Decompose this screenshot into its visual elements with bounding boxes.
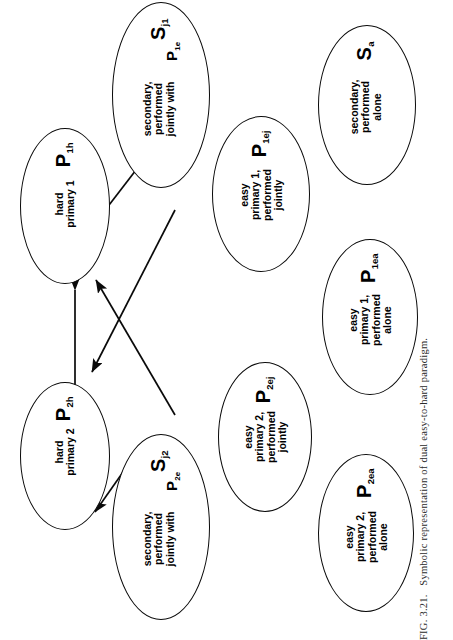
figure-page: P2h hard primary 2 P1h hard primary 1 Sj…: [0, 0, 453, 640]
node-easy-primary-1-alone[interactable]: P1ea easy primary 1, performed alone: [322, 239, 418, 395]
node-description-sa: secondary, performed alone: [349, 64, 383, 150]
figure-caption-text: Symbolic representation of dual easy-to-…: [418, 338, 429, 586]
node-hard-primary-1[interactable]: P1h hard primary 1: [20, 128, 110, 284]
node-trailer-symbol-sj2: P2e: [163, 472, 180, 491]
edge-sj2-p1h: [96, 280, 175, 415]
node-trailer-symbol-sj1: P1e: [163, 42, 180, 61]
diagram-canvas: P2h hard primary 2 P1h hard primary 1 Sj…: [0, 0, 400, 640]
node-symbol-p2ea: P2ea: [353, 469, 376, 498]
node-easy-primary-2-alone[interactable]: P2ea easy primary 2, performed alone: [318, 454, 414, 612]
node-description-sj1: secondary, performed jointly with: [142, 63, 176, 155]
node-secondary-alone[interactable]: Sa secondary, performed alone: [318, 25, 416, 185]
node-secondary-joint-2[interactable]: Sj2 secondary, performed jointly with P2…: [112, 434, 210, 620]
node-easy-primary-2-joint[interactable]: P2ej easy primary 2, performed jointly: [218, 362, 312, 512]
node-symbol-sa: Sa: [353, 42, 376, 60]
node-description-p2ej: easy primary 2, performed jointly: [243, 395, 289, 479]
node-symbol-sj1: Sj1: [147, 19, 170, 40]
node-hard-primary-2[interactable]: P2h hard primary 2: [20, 382, 110, 530]
node-secondary-joint-1[interactable]: Sj1 secondary, performed jointly with P1…: [112, 2, 210, 188]
node-description-p2h: hard primary 2: [54, 409, 77, 495]
node-description-p1ej: easy primary 1, performed jointly: [239, 153, 285, 237]
node-easy-primary-1-joint[interactable]: P1ej easy primary 1, performed jointly: [212, 116, 310, 272]
node-description-sj2: secondary, performed jointly with: [142, 493, 176, 585]
node-symbol-sj2: Sj2: [147, 451, 170, 472]
node-description-p1ea: easy primary 1, performed alone: [348, 278, 394, 362]
node-description-p1h: hard primary 1: [54, 161, 77, 247]
figure-number: FIG. 3.21.: [418, 594, 429, 640]
figure-caption: FIG. 3.21. Symbolic representation of du…: [418, 0, 429, 640]
node-description-p2ea: easy primary 2, performed alone: [344, 495, 390, 579]
